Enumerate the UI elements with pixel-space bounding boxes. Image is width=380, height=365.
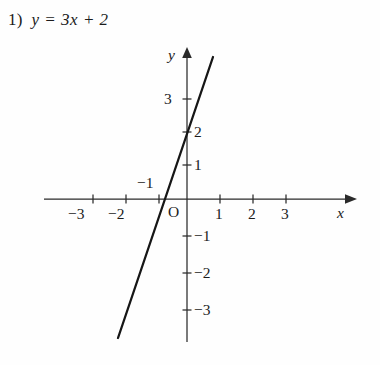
x-tick-label-2: 2	[248, 206, 256, 222]
x-axis	[44, 194, 357, 204]
y-axis	[182, 47, 192, 342]
worksheet-page: 1)y = 3x + 2	[0, 0, 380, 365]
y-axis-arrow-icon	[182, 47, 192, 58]
x-tick-label-1: 1	[215, 206, 223, 222]
x-tick-label--3: −3	[68, 206, 85, 222]
y-tick-label-3: 3	[164, 91, 172, 107]
x-axis-name-label: x	[337, 205, 344, 221]
origin-label: O	[168, 204, 179, 220]
y-tick-label--2: −2	[194, 265, 211, 281]
y-axis-name-label: y	[168, 47, 175, 63]
x-axis-arrow-icon	[345, 194, 357, 204]
y-tick-label--3: −3	[194, 302, 211, 318]
coordinate-graph: y x O −3 −2 −1 1 2 3 3 2 1 −1 −2 −3	[0, 0, 380, 365]
y-tick-label-2: 2	[194, 124, 202, 140]
x-tick-label-3: 3	[281, 206, 289, 222]
x-tick-label--1: −1	[137, 175, 154, 191]
y-tick-label-1: 1	[194, 157, 202, 173]
y-tick-label--1: −1	[194, 228, 211, 244]
x-tick-label--2: −2	[108, 206, 125, 222]
